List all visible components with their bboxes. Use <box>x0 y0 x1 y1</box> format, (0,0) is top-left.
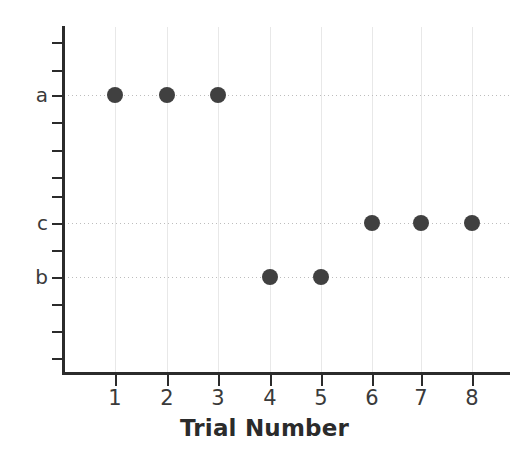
data-point[interactable] <box>413 215 429 231</box>
y-axis-tick-label-b: b <box>4 267 48 287</box>
plot-area <box>64 27 510 373</box>
data-point[interactable] <box>464 215 480 231</box>
horizontal-gridline <box>64 223 510 224</box>
x-axis-tick <box>472 375 474 386</box>
scatter-plot-figure: acb 12345678 Trial Number <box>0 0 529 457</box>
vertical-gridline <box>115 27 116 373</box>
data-point[interactable] <box>107 87 123 103</box>
vertical-gridline <box>421 27 422 373</box>
x-axis-title: Trial Number <box>0 415 529 441</box>
x-axis-tick <box>421 375 423 386</box>
x-axis-tick-label-8: 8 <box>452 388 492 409</box>
y-axis-tick <box>52 250 63 252</box>
x-axis-tick-label-3: 3 <box>198 388 238 409</box>
y-axis-tick-labels: acb <box>0 0 48 457</box>
vertical-gridline <box>372 27 373 373</box>
y-axis-tick-label-c: c <box>4 213 48 233</box>
x-axis-tick-label-7: 7 <box>401 388 441 409</box>
y-axis-tick <box>52 331 63 333</box>
x-axis-tick <box>372 375 374 386</box>
data-point[interactable] <box>210 87 226 103</box>
data-point[interactable] <box>364 215 380 231</box>
y-axis-tick <box>52 95 63 97</box>
y-axis-tick <box>52 358 63 360</box>
y-axis-tick <box>52 122 63 124</box>
x-axis-tick <box>115 375 117 386</box>
x-axis-tick-label-4: 4 <box>250 388 290 409</box>
x-axis-tick <box>270 375 272 386</box>
y-axis-tick <box>52 277 63 279</box>
x-axis-tick-label-1: 1 <box>95 388 135 409</box>
vertical-gridline <box>321 27 322 373</box>
horizontal-gridline <box>64 277 510 278</box>
y-axis-tick <box>52 150 63 152</box>
y-axis-tick <box>52 196 63 198</box>
vertical-gridline <box>218 27 219 373</box>
y-axis-tick-label-a: a <box>4 85 48 105</box>
horizontal-gridline <box>64 95 510 96</box>
x-axis-spine <box>62 372 510 375</box>
x-axis-tick-label-6: 6 <box>352 388 392 409</box>
y-axis-spine <box>62 26 65 375</box>
vertical-gridline <box>167 27 168 373</box>
y-axis-tick <box>52 42 63 44</box>
data-point[interactable] <box>159 87 175 103</box>
y-axis-tick <box>52 304 63 306</box>
x-axis-tick <box>321 375 323 386</box>
y-axis-tick <box>52 177 63 179</box>
x-axis-tick <box>167 375 169 386</box>
vertical-gridline <box>472 27 473 373</box>
data-point[interactable] <box>262 269 278 285</box>
y-axis-tick <box>52 223 63 225</box>
x-axis-tick-label-2: 2 <box>147 388 187 409</box>
y-axis-tick <box>52 70 63 72</box>
x-axis-tick <box>218 375 220 386</box>
data-point[interactable] <box>313 269 329 285</box>
x-axis-tick-label-5: 5 <box>301 388 341 409</box>
vertical-gridline <box>270 27 271 373</box>
